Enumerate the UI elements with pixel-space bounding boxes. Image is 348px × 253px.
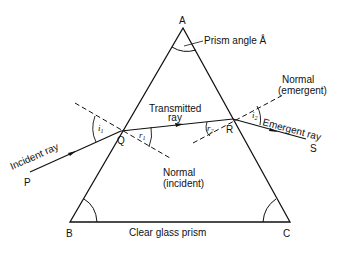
incident-arrow-icon (68, 151, 76, 156)
normal-incident-label-line2: (incident) (163, 178, 204, 189)
angle-i1-label: i1 (98, 123, 104, 134)
vertex-a-label: A (179, 15, 186, 26)
point-r-label: R (226, 124, 233, 135)
point-q-label: Q (117, 135, 125, 146)
b-angle-arc (84, 199, 97, 222)
incident-ray-label: Incident ray (8, 141, 60, 172)
i1-angle-arc (93, 116, 96, 142)
point-s-label: S (310, 143, 317, 154)
prism-angle-pointer (184, 41, 203, 46)
vertex-b-label: B (66, 228, 73, 239)
point-p-label: P (24, 177, 31, 188)
prism-angle-label: Prism angle Å (204, 34, 267, 46)
vertex-c-label: C (283, 228, 290, 239)
prism-name-label: Clear glass prism (129, 227, 206, 238)
normal-incident-label-line1: Normal (163, 167, 195, 178)
angle-r2-label: r2 (207, 123, 214, 134)
angle-i2-label: i2 (252, 110, 258, 121)
normal-emergent-label-line1: Normal (282, 74, 314, 85)
angle-r1-label: r1 (139, 130, 146, 141)
prism-diagram: A B C P Q R S Prism angle Å Transmitted … (0, 0, 348, 253)
c-angle-arc (263, 199, 276, 222)
r1-angle-arc (149, 127, 152, 147)
transmitted-label-line2: ray (168, 112, 182, 123)
apex-angle-arc (172, 47, 196, 51)
normal-emergent-label-line2: (emergent) (278, 85, 327, 96)
